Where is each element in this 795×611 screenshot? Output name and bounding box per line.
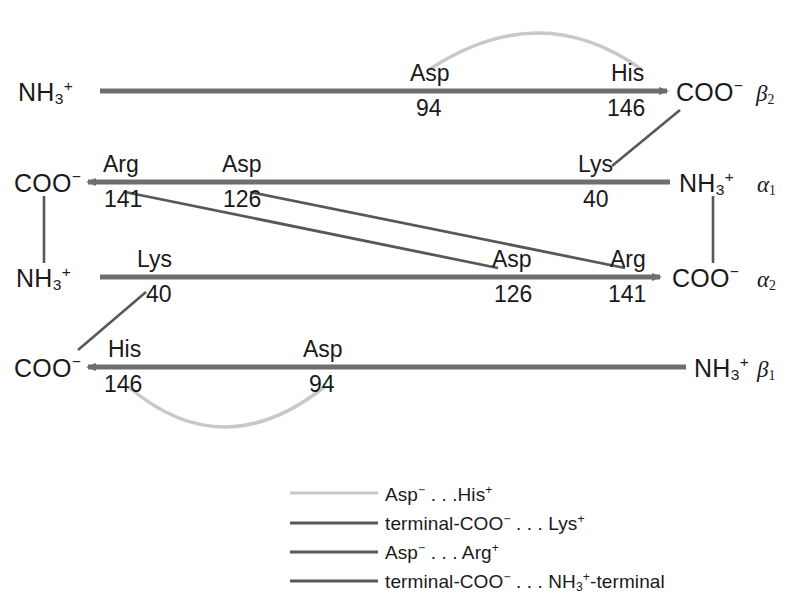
chain-label-alpha1: α1 (757, 173, 776, 198)
legend-item-3-text: terminal-COO− . . . NH3+-terminal (385, 571, 665, 593)
residue-label-alpha1-arg141: Arg (103, 153, 139, 176)
residue-label-beta1-asp94: Asp (303, 338, 343, 361)
chain-label-alpha2: α2 (757, 268, 776, 293)
residue-number-alpha1-arg141: 141 (104, 188, 142, 211)
salt-bridge-arc-beta1-his146-asp94 (130, 388, 323, 427)
residue-number-beta1-his146: 146 (104, 373, 142, 396)
residue-number-beta2-his146: 146 (607, 97, 645, 120)
residue-number-alpha2-lys40: 40 (146, 283, 172, 306)
terminal-label-beta2-right: COO− (676, 78, 743, 105)
residue-label-alpha2-arg141: Arg (610, 248, 646, 271)
residue-number-alpha2-arg141: 141 (608, 283, 646, 306)
residue-label-beta2-his146: His (611, 62, 644, 85)
residue-label-alpha2-lys40: Lys (137, 248, 172, 271)
residue-label-alpha1-asp126: Asp (222, 153, 262, 176)
figure-canvas: NH3+ Asp 94 His 146 COO− β2 COO− Arg 141… (0, 0, 795, 611)
legend-item-1-text: terminal-COO− . . . Lys+ (385, 513, 585, 533)
residue-number-beta2-asp94: 94 (416, 97, 442, 120)
chain-label-beta1: β1 (757, 358, 775, 383)
terminal-label-beta1-right: NH3+ (694, 354, 749, 383)
residue-label-beta1-his146: His (108, 338, 141, 361)
terminal-label-alpha1-left: COO− (14, 169, 81, 196)
salt-bridge-arc-beta2-asp94-his146 (430, 33, 641, 69)
legend-item-0-text: Asp− . . .His+ (385, 484, 492, 504)
terminal-label-alpha2-left: NH3+ (16, 264, 71, 293)
residue-label-alpha1-lys40: Lys (578, 153, 613, 176)
terminal-label-alpha2-right: COO− (672, 264, 739, 291)
residue-label-beta2-asp94: Asp (410, 62, 450, 85)
residue-number-alpha2-asp126: 126 (494, 283, 532, 306)
legend-item-2-text: Asp− . . . Arg+ (385, 542, 499, 562)
residue-number-alpha1-asp126: 126 (223, 188, 261, 211)
residue-number-alpha1-lys40: 40 (583, 188, 609, 211)
terminal-label-alpha1-right: NH3+ (679, 169, 734, 198)
chain-label-beta2: β2 (756, 82, 774, 107)
terminal-label-beta1-left: COO− (14, 354, 81, 381)
residue-number-beta1-asp94: 94 (309, 373, 335, 396)
residue-label-alpha2-asp126: Asp (492, 248, 532, 271)
terminal-label-beta2-left: NH3+ (18, 78, 73, 107)
